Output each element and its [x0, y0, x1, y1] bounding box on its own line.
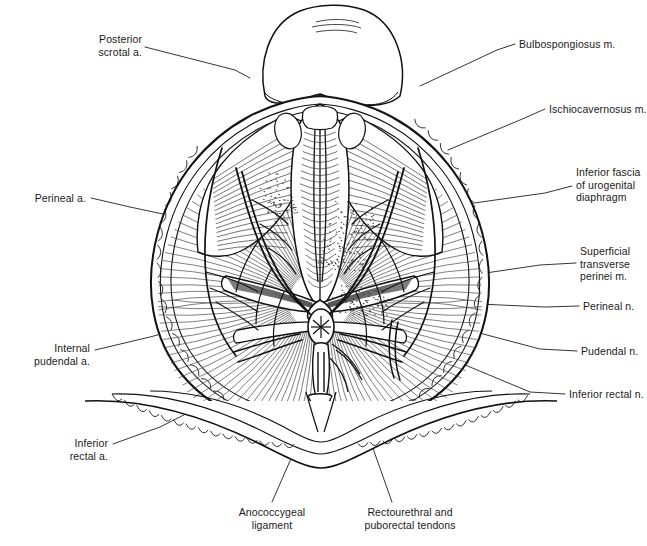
label-inferior-rectal-a: Inferior rectal a.: [50, 437, 108, 462]
label-anococcygeal-ligament: Anococcygeal ligament: [220, 506, 324, 531]
label-perineal-n: Perineal n.: [583, 300, 647, 313]
label-bulbospongiosus-m: Bulbospongiosus m.: [519, 38, 647, 51]
label-inferior-fascia-of-urogenital-diaphragm: Inferior fascia of urogenital diaphragm: [576, 166, 647, 204]
anococcygeal-ligament: [313, 343, 330, 402]
bulb-apex: [302, 106, 337, 130]
label-posterior-scrotal-a: Posterior scrotal a.: [78, 33, 142, 58]
label-perineal-a: Perineal a.: [23, 192, 86, 205]
scrotum: [263, 5, 403, 105]
label-inferior-rectal-n: Inferior rectal n.: [569, 388, 647, 401]
label-pudendal-n: Pudendal n.: [581, 345, 647, 358]
label-rectourethral-and-puborectal-tendons: Rectourethral and puborectal tendons: [359, 506, 461, 531]
perineum-illustration: [0, 0, 647, 546]
label-superficial-transverse-perinei-m: Superficial transverse perinei m.: [580, 245, 647, 283]
label-ischiocavernosus-m: Ischiocavernosus m.: [549, 103, 647, 116]
anatomy-figure-page: Posterior scrotal a. Bulbospongiosus m. …: [0, 0, 647, 546]
label-internal-pudendal-a: Internal pudendal a.: [26, 342, 90, 367]
